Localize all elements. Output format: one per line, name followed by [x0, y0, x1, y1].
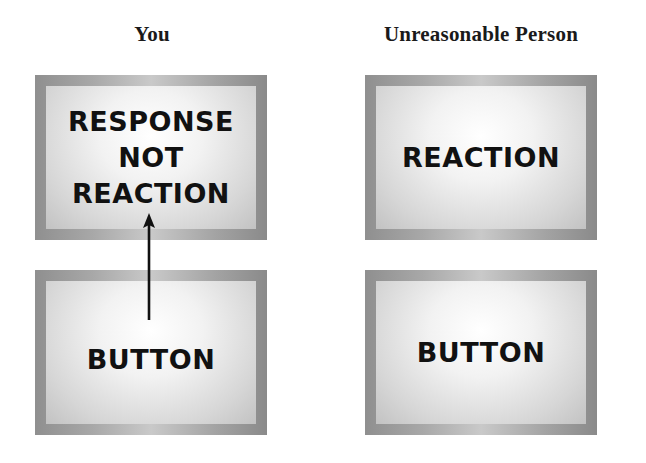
- reaction-label: REACTION: [402, 140, 560, 176]
- reaction-box: REACTION: [365, 75, 597, 240]
- button-box-unreasonable: BUTTON: [365, 270, 597, 435]
- reaction-box-inner: REACTION: [376, 86, 586, 229]
- response-box-inner: RESPONSE NOT REACTION: [46, 86, 256, 229]
- button-box-unreasonable-inner: BUTTON: [376, 281, 586, 424]
- response-label: RESPONSE NOT REACTION: [68, 104, 234, 212]
- button-label-you: BUTTON: [87, 342, 216, 378]
- column-title-unreasonable-person: Unreasonable Person: [331, 22, 631, 47]
- button-label-unreasonable: BUTTON: [417, 335, 546, 371]
- arrow-up-icon: [142, 213, 156, 320]
- column-title-you: You: [2, 22, 302, 47]
